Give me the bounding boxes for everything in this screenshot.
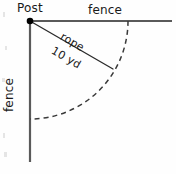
rope-reach-arc [30,21,128,119]
post-marker [27,18,34,25]
post-label: Post [17,2,43,14]
fence-top-label: fence [88,4,122,16]
scan-artifact [3,133,5,138]
scan-artifact [4,152,7,157]
geometry-figure: Post fence fence rope 10 yd [0,0,176,174]
figure-canvas [0,0,176,174]
scan-artifact [5,46,7,50]
scan-artifact [3,12,5,17]
fence-left-label: fence [3,78,15,112]
